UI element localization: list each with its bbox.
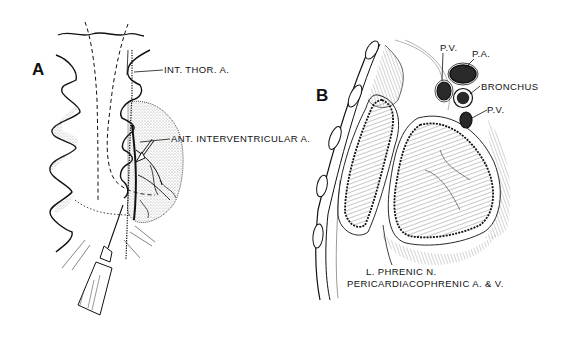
label-ant-interventricular-a: ANT. INTERVENTRICULAR A. (171, 133, 310, 144)
label-pericardiacophrenic: PERICARDIACOPHRENIC A. & V. (347, 278, 504, 289)
label-pa: P.A. (472, 48, 490, 59)
panel-label-a: A (32, 60, 44, 80)
panel-b-drawing (312, 39, 510, 300)
label-phrenic-n: L. PHRENIC N. (366, 266, 437, 277)
panel-label-b: B (316, 86, 328, 106)
label-pv-bottom: P.V. (487, 104, 504, 115)
label-int-thor-a: INT. THOR. A. (164, 64, 229, 75)
anatomical-figure: A B INT. THOR. A. ANT. INTERVENTRICULAR … (0, 0, 568, 338)
label-pv-top: P.V. (440, 42, 457, 53)
label-bronchus: BRONCHUS (481, 81, 539, 92)
